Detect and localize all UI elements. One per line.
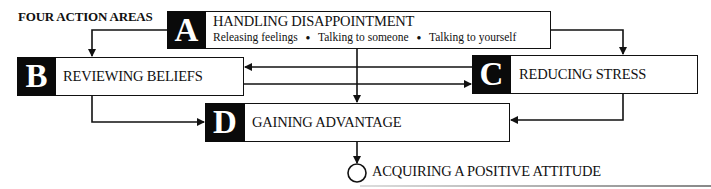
area-b-letter: B <box>17 57 56 96</box>
arrow-a-to-c <box>550 30 623 54</box>
bullet-icon: ● <box>416 33 421 42</box>
area-a-label: HANDLING DISAPPOINTMENT <box>213 13 414 30</box>
area-a-letter: A <box>167 11 206 49</box>
bullet-icon: ● <box>306 33 311 42</box>
area-b-box: B REVIEWING BELIEFS <box>17 57 244 96</box>
area-c-box: C REDUCING STRESS <box>472 55 698 94</box>
area-d-box: D GAINING ADVANTAGE <box>205 103 510 142</box>
area-c-letter: C <box>472 55 511 94</box>
area-a-items: Releasing feelings ● Talking to someone … <box>213 31 516 43</box>
arrow-b-to-d <box>92 95 204 122</box>
area-a-item: Talking to yourself <box>429 31 516 43</box>
arrow-a-to-b <box>92 30 167 56</box>
area-d-label: GAINING ADVANTAGE <box>252 114 401 131</box>
area-a-item: Releasing feelings <box>213 31 298 43</box>
area-a-item: Talking to someone <box>318 31 409 43</box>
goal-circle-icon <box>348 164 366 182</box>
area-c-label: REDUCING STRESS <box>519 66 646 83</box>
area-b-label: REVIEWING BELIEFS <box>63 68 203 85</box>
arrow-c-to-d <box>511 93 623 120</box>
bottom-rule <box>360 185 711 187</box>
goal-label: ACQUIRING A POSITIVE ATTITUDE <box>372 163 601 180</box>
area-a-box: A HANDLING DISAPPOINTMENT Releasing feel… <box>167 11 551 49</box>
area-d-letter: D <box>205 103 245 142</box>
